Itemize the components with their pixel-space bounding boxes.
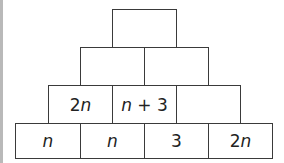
pyramid-cell-r4-c4: 2n: [208, 123, 273, 159]
cell-label: n: [43, 131, 54, 151]
pyramid-cell-r2-c1: [80, 47, 145, 87]
cell-label: 3: [171, 131, 182, 151]
cell-label: 2n: [70, 95, 92, 115]
pyramid-cell-r3-c3: [176, 85, 241, 124]
cell-label: n: [107, 131, 118, 151]
pyramid-cell-r3-c2: n + 3: [112, 85, 177, 124]
pyramid-cell-r2-c2: [144, 47, 209, 87]
pyramid-cell-r3-c1: 2n: [48, 85, 113, 124]
pyramid-cell-r4-c3: 3: [144, 123, 209, 159]
pyramid-cell-r4-c1: n: [15, 123, 81, 159]
pyramid-cell-r4-c2: n: [80, 123, 145, 159]
left-edge-divider: [0, 0, 3, 163]
pyramid-cell-r1-c1: [112, 9, 177, 49]
cell-label: 2n: [230, 131, 252, 151]
cell-label: n + 3: [121, 95, 168, 115]
